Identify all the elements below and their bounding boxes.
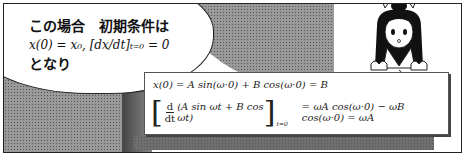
left-bracket: [ [151,97,163,127]
derivative-numerator: d [166,101,174,113]
right-bracket: ] [264,97,276,127]
bubble-line-2: x(0) = x₀, [dx/dt]ₜ₌₀ = 0 [29,36,169,54]
equation-rhs: = ωA cos(ω·0) − ωB cos(ω·0) = ωA [302,101,448,123]
equation-initial-velocity: [ d dt (A sin ωt + B cos ωt) ] t=0 = ωA … [151,97,448,127]
equation-initial-position: x(0) = A sin(ω·0) + B cos(ω·0) = B [153,79,328,90]
speech-bubble-text: この場合 初期条件は x(0) = x₀, [dx/dt]ₜ₌₀ = 0 となり [29,16,169,74]
bubble-line-1: この場合 初期条件は [29,16,169,36]
equation-board: x(0) = A sin(ω·0) + B cos(ω·0) = B [ d d… [144,72,449,135]
manga-panel: この場合 初期条件は x(0) = x₀, [dx/dt]ₜ₌₀ = 0 となり… [3,3,462,153]
bubble-line-3: となり [29,54,169,74]
derivative-expression: (A sin ωt + B cos ωt) [177,101,264,123]
bracket-subscript: t=0 [277,120,288,127]
screentone-bottom-bar [134,136,434,150]
derivative-fraction: d dt [165,101,175,124]
derivative-denominator: dt [165,113,175,124]
